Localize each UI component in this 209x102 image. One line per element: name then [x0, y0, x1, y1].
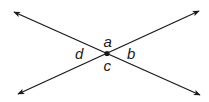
- angle-label-b: b: [127, 45, 135, 62]
- angle-label-c: c: [104, 57, 112, 74]
- intersection-point: [104, 51, 109, 56]
- angle-label-a: a: [104, 33, 112, 50]
- intersecting-lines-diagram: a d b c: [0, 0, 209, 102]
- angle-label-d: d: [75, 45, 84, 62]
